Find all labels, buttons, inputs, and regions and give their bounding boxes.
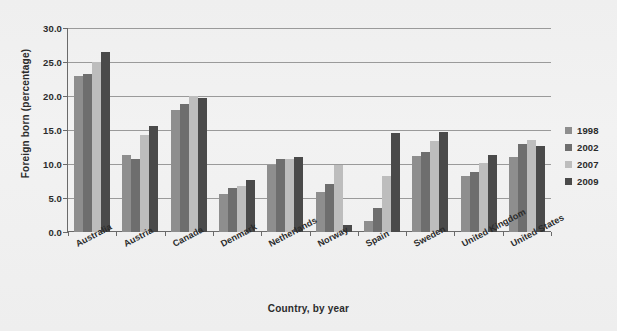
legend: 1998200220072009 (565, 122, 615, 190)
legend-swatch-icon (565, 161, 572, 168)
x-tick-mark (213, 232, 214, 236)
bar (334, 165, 343, 232)
x-tick-mark (165, 232, 166, 236)
bar (74, 76, 83, 232)
bar (140, 135, 149, 232)
bar (364, 221, 373, 232)
bar (131, 159, 140, 232)
x-tick-mark (116, 232, 117, 236)
legend-item: 1998 (565, 122, 615, 139)
bar (461, 176, 470, 232)
figure-title (0, 0, 617, 1)
bar (536, 146, 545, 232)
bar (439, 132, 448, 232)
legend-swatch-icon (565, 144, 572, 151)
bar (470, 172, 479, 232)
bar-group (68, 28, 116, 232)
legend-swatch-icon (565, 178, 572, 185)
x-tick-mark (68, 232, 69, 236)
bar (285, 159, 294, 232)
legend-item: 2009 (565, 173, 615, 190)
bar (219, 194, 228, 232)
bar (382, 176, 391, 232)
legend-item: 2007 (565, 156, 615, 173)
bar (189, 96, 198, 232)
x-tick-mark (261, 232, 262, 236)
bar-group (261, 28, 309, 232)
bar (325, 184, 334, 232)
bar (373, 208, 382, 232)
x-axis-title: Country, by year (0, 303, 617, 314)
bar-group (116, 28, 164, 232)
bar-group (213, 28, 261, 232)
bar (527, 140, 536, 232)
bar-group (165, 28, 213, 232)
bar-group (358, 28, 406, 232)
x-tick-mark (406, 232, 407, 236)
bar (430, 141, 439, 232)
bar-group (406, 28, 454, 232)
y-axis-title: Foreign born (percentage) (20, 14, 31, 214)
legend-label: 2007 (577, 159, 599, 170)
x-tick-mark (551, 232, 552, 236)
bar (267, 165, 276, 232)
bar (171, 110, 180, 232)
bar (421, 152, 430, 232)
bar (316, 192, 325, 232)
bar (228, 188, 237, 232)
bar (276, 159, 285, 232)
legend-label: 2002 (577, 142, 599, 153)
legend-label: 2009 (577, 176, 599, 187)
bar (412, 156, 421, 232)
legend-label: 1998 (577, 125, 599, 136)
bar (391, 133, 400, 232)
legend-swatch-icon (565, 127, 572, 134)
bar-group (503, 28, 551, 232)
bar (149, 126, 158, 232)
x-tick-mark (358, 232, 359, 236)
x-tick-mark (503, 232, 504, 236)
bar (198, 98, 207, 232)
bar-group (310, 28, 358, 232)
x-tick-mark (454, 232, 455, 236)
bar (180, 104, 189, 232)
bar (83, 74, 92, 232)
plot-area (68, 28, 551, 232)
bar-chart-figure: 0.05.010.015.020.025.030.0 Foreign born … (0, 0, 617, 331)
bar (122, 155, 131, 232)
y-tick-label: 0.0 (22, 227, 62, 238)
bar (92, 62, 101, 232)
bar (479, 163, 488, 232)
bar-group (454, 28, 502, 232)
bar (101, 52, 110, 232)
x-tick-mark (310, 232, 311, 236)
legend-item: 2002 (565, 139, 615, 156)
